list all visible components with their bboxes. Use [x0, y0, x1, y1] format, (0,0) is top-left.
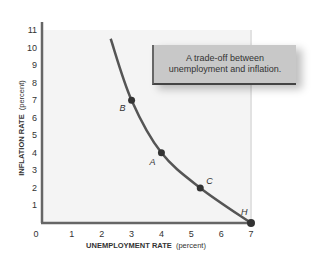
- x-tick-label: 5: [189, 229, 194, 239]
- x-axis-title: UNEMPLOYMENT RATE (percent): [86, 241, 206, 250]
- x-tick-label: 6: [219, 229, 224, 239]
- point-label-c: C: [206, 176, 213, 186]
- point-label-h: H: [241, 207, 248, 217]
- y-tick-labels: 1234567891011: [27, 25, 37, 210]
- point-label-a: A: [148, 157, 155, 167]
- x-tick-label: 1: [69, 229, 74, 239]
- y-tick-label: 5: [32, 130, 37, 140]
- point-h: [247, 219, 255, 227]
- phillips-curve-chart: 1234567891011 01234567 BACH UNEMPLOYMENT…: [0, 0, 319, 260]
- point-label-b: B: [120, 103, 126, 113]
- point-a: [158, 149, 165, 156]
- y-tick-label: 8: [32, 78, 37, 88]
- y-tick-label: 9: [32, 60, 37, 70]
- y-tick-label: 6: [32, 113, 37, 123]
- y-tick-label: 11: [28, 25, 37, 35]
- y-axis-title: INFLATION RATE (percent): [17, 80, 26, 176]
- x-tick-label: 2: [99, 229, 104, 239]
- y-tick-label: 10: [27, 43, 37, 53]
- x-tick-labels: 01234567: [33, 229, 253, 239]
- y-tick-label: 7: [32, 95, 37, 105]
- x-tick-label: 0: [33, 229, 38, 239]
- annotation-box: A trade-off between unemployment and inf…: [152, 45, 296, 85]
- x-tick-label: 3: [129, 229, 134, 239]
- point-c: [197, 184, 204, 191]
- x-tick-label: 4: [159, 229, 164, 239]
- y-tick-label: 4: [32, 148, 37, 158]
- x-tick-label: 7: [248, 229, 253, 239]
- point-b: [128, 97, 135, 104]
- annotation-line-1: A trade-off between: [186, 53, 264, 64]
- annotation-line-2: unemployment and inflation.: [169, 64, 282, 75]
- y-tick-label: 1: [32, 200, 37, 210]
- y-tick-label: 3: [32, 165, 37, 175]
- y-tick-label: 2: [32, 183, 37, 193]
